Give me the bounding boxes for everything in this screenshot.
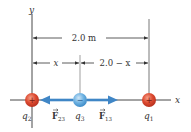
x-segment-label: x	[54, 58, 59, 68]
x-axis-label: x	[175, 95, 180, 105]
charge-q1: +	[142, 93, 156, 107]
charge-q2: +	[25, 93, 39, 107]
positive-sign-icon: +	[146, 96, 153, 105]
positive-sign-icon: +	[29, 96, 36, 105]
f23-label: F23	[52, 109, 66, 122]
force-f23-arrow	[40, 96, 73, 105]
remaining-segment-label: 2.0 − x	[100, 58, 131, 68]
f13-label: F13	[99, 109, 113, 122]
negative-sign-icon: −	[77, 96, 84, 105]
y-axis-label: y	[28, 5, 35, 15]
charge-q3: −	[73, 93, 87, 107]
svg-text:F23: F23	[52, 111, 66, 122]
force-f13-arrow	[87, 96, 118, 105]
total-distance-label: 2.0 m	[72, 33, 96, 43]
q1-label: q1	[144, 111, 154, 122]
svg-text:F13: F13	[99, 111, 113, 122]
q2-label: q2	[22, 111, 32, 122]
charge-diagram: y x 2.0 m x 2.0 − x + − + q2 q3	[0, 0, 191, 132]
q3-label: q3	[75, 111, 85, 122]
